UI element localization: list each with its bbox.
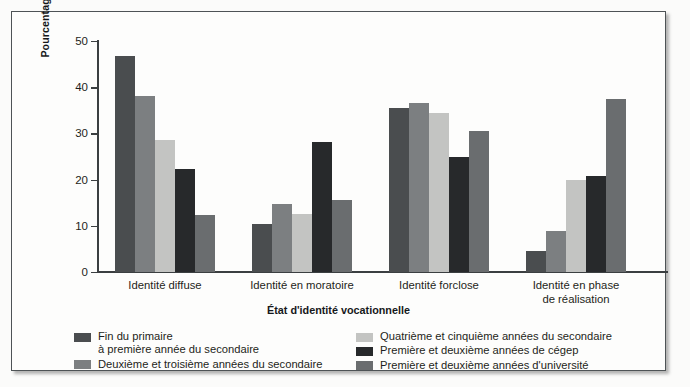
- y-axis-tick-label: 0: [82, 266, 88, 278]
- bar: [409, 103, 429, 272]
- x-axis-title: État d'identité vocationnelle: [12, 304, 665, 316]
- legend-swatch-icon: [74, 360, 91, 369]
- y-axis-tick-label: 10: [75, 220, 88, 232]
- bar: [135, 96, 155, 272]
- bar: [292, 214, 312, 272]
- bar: [115, 56, 135, 272]
- bar: [429, 113, 449, 272]
- y-axis-tick-label: 20: [75, 174, 88, 186]
- legend-item-label: Première et deuxième années d'université: [380, 359, 589, 372]
- legend-column-left: Fin du primaire à première année du seco…: [74, 330, 364, 372]
- legend: Fin du primaire à première année du seco…: [74, 330, 674, 378]
- bar: [389, 108, 409, 272]
- legend-item: Fin du primaire à première année du seco…: [74, 330, 364, 357]
- bar-group: [115, 41, 215, 272]
- bar: [272, 204, 292, 272]
- bar: [586, 176, 606, 272]
- legend-swatch-icon: [356, 361, 373, 370]
- bar: [252, 224, 272, 273]
- bar: [566, 180, 586, 272]
- y-axis-tick-label: 50: [75, 35, 88, 47]
- legend-item: Première et deuxième années d'université: [356, 359, 686, 372]
- legend-item-label: Quatrième et cinquième années du seconda…: [380, 330, 612, 343]
- y-axis-tick-label: 40: [75, 81, 88, 93]
- bar: [546, 231, 566, 272]
- legend-column-right: Quatrième et cinquième années du seconda…: [356, 330, 686, 373]
- x-axis-category-label: Identité en phase de réalisation: [486, 279, 666, 306]
- bar-group: [389, 41, 489, 272]
- figure-frame: 01020304050 Pourcentage de jeunes dans c…: [11, 11, 666, 371]
- bar: [155, 140, 175, 272]
- legend-swatch-icon: [356, 347, 373, 356]
- legend-item: Première et deuxième années de cégep: [356, 344, 686, 357]
- legend-item-label: Fin du primaire à première année du seco…: [98, 330, 259, 357]
- y-axis-title: Pourcentage de jeunes dans chaque état p…: [39, 0, 66, 59]
- bar: [526, 251, 546, 272]
- bar: [195, 215, 215, 272]
- bar: [332, 200, 352, 272]
- bar: [312, 142, 332, 272]
- figure-canvas: 01020304050 Pourcentage de jeunes dans c…: [0, 0, 690, 387]
- legend-item-label: Première et deuxième années de cégep: [380, 344, 578, 357]
- bar: [175, 169, 195, 272]
- bar-group: [252, 41, 352, 272]
- legend-swatch-icon: [356, 333, 373, 342]
- bar: [469, 131, 489, 272]
- legend-item: Deuxième et troisième années du secondai…: [74, 358, 364, 371]
- plot-area: [97, 41, 667, 272]
- bar: [606, 99, 626, 272]
- y-axis-tick-label: 30: [75, 127, 88, 139]
- bar: [449, 157, 469, 273]
- legend-item: Quatrième et cinquième années du seconda…: [356, 330, 686, 343]
- bar-group: [526, 41, 626, 272]
- y-axis-tick: [91, 272, 97, 273]
- legend-swatch-icon: [74, 333, 91, 342]
- legend-item-label: Deuxième et troisième années du secondai…: [98, 358, 323, 371]
